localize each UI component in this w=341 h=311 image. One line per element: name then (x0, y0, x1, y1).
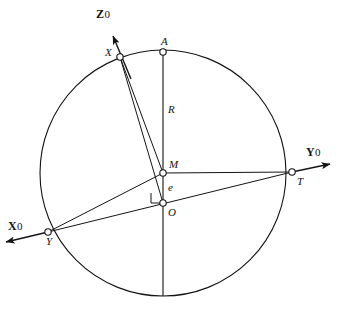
axis-label-x0: X0 (8, 220, 23, 232)
geometry-figure: A X M O T Y R e Z0 Y0 X0 (0, 0, 341, 311)
axis-letter-x: X (8, 219, 17, 233)
axis-label-z0: Z0 (96, 8, 110, 20)
axis-label-y0: Y0 (306, 146, 321, 158)
axis-zero-z: 0 (104, 8, 110, 20)
point-marker-o (160, 200, 166, 206)
point-label-m: M (169, 159, 178, 170)
axis-letter-y: Y (306, 145, 315, 159)
segment-x-o (120, 57, 163, 203)
point-label-x: X (105, 47, 112, 58)
segment-m-t (163, 172, 292, 173)
axis-zero-x: 0 (17, 220, 23, 232)
point-marker-m (160, 170, 166, 176)
segment-y-m (48, 173, 163, 232)
segment-x-m (120, 57, 163, 173)
point-marker-t (289, 169, 295, 175)
segment-label-radius: R (168, 104, 175, 115)
axis-arrow-y0 (292, 164, 330, 172)
axis-arrow-x0 (6, 232, 48, 242)
point-label-o: O (168, 207, 176, 218)
point-label-y: Y (46, 236, 52, 247)
axis-zero-y: 0 (315, 146, 321, 158)
diagram-canvas (0, 0, 341, 311)
segment-label-eccentricity: e (168, 182, 173, 193)
point-label-t: T (297, 176, 303, 187)
point-label-a: A (161, 36, 168, 47)
point-marker-a (160, 49, 166, 55)
point-marker-x (117, 54, 123, 60)
